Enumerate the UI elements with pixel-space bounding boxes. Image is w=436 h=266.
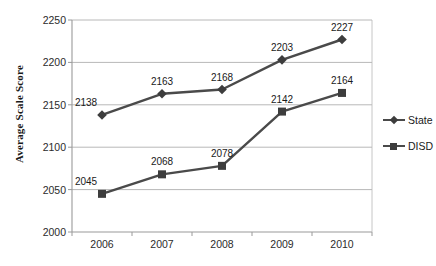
- legend-item-label: DISD: [408, 140, 433, 152]
- data-point-marker: [158, 170, 166, 178]
- legend-item-disd[interactable]: DISD: [383, 140, 433, 152]
- data-point-marker: [278, 108, 286, 116]
- data-point-label: 2138: [75, 97, 97, 108]
- data-point-label: 2142: [271, 94, 293, 105]
- data-point-marker: [277, 55, 287, 65]
- legend-item-label: State: [408, 114, 433, 126]
- data-point-label: 2168: [211, 72, 233, 83]
- data-point-marker: [98, 190, 106, 198]
- series-line-disd: [102, 93, 342, 194]
- legend-item-state[interactable]: State: [383, 114, 433, 126]
- data-point-label: 2078: [211, 148, 233, 159]
- data-point-marker: [218, 162, 226, 170]
- data-point-marker: [217, 85, 227, 95]
- data-point-label: 2164: [331, 75, 353, 86]
- data-point-marker: [338, 89, 346, 97]
- plot-area: [0, 0, 436, 266]
- chart-container: Average Scale Score 22502200215021002050…: [0, 0, 436, 266]
- data-point-marker: [97, 110, 107, 120]
- data-point-label: 2163: [151, 76, 173, 87]
- data-point-label: 2045: [75, 176, 97, 187]
- data-point-marker: [337, 35, 347, 45]
- square-marker-icon: [383, 141, 405, 151]
- data-point-label: 2068: [151, 156, 173, 167]
- data-point-label: 2203: [271, 42, 293, 53]
- diamond-marker-icon: [383, 115, 405, 125]
- data-point-marker: [157, 89, 167, 99]
- data-point-label: 2227: [331, 22, 353, 33]
